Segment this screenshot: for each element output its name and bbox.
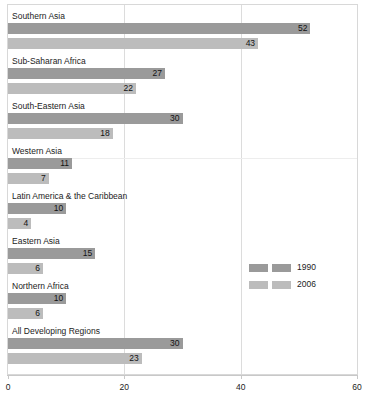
bar-value-label: 10	[54, 293, 63, 304]
x-tick-mark	[357, 375, 358, 379]
bar-value-label: 30	[170, 113, 179, 124]
plot-area: Southern Asia5243Sub-Saharan Africa2722S…	[7, 4, 358, 375]
legend-item-1990[interactable]: 1990	[249, 261, 349, 274]
category-label: Sub-Saharan Africa	[12, 55, 86, 67]
bar-group: Western Asia117	[8, 145, 357, 184]
bar-1990: 15	[8, 248, 95, 259]
bar-1990: 52	[8, 23, 310, 34]
category-label: All Developing Regions	[12, 325, 100, 337]
bar-2006: 23	[8, 353, 142, 364]
bar-1990: 27	[8, 68, 165, 79]
bar-groups: Southern Asia5243Sub-Saharan Africa2722S…	[8, 5, 357, 374]
bar-2006: 4	[8, 218, 31, 229]
bar-2006: 7	[8, 173, 49, 184]
bar-1990: 11	[8, 158, 72, 169]
bar-value-label: 6	[35, 308, 40, 319]
bar-2006: 6	[8, 308, 43, 319]
bar-value-label: 7	[41, 173, 46, 184]
x-tick-mark	[124, 375, 125, 379]
bar-1990: 10	[8, 293, 66, 304]
bar-value-label: 43	[246, 38, 255, 49]
category-label: Southern Asia	[12, 10, 65, 22]
bar-value-label: 10	[54, 203, 63, 214]
category-label: Northern Africa	[12, 280, 69, 292]
category-label: Eastern Asia	[12, 235, 60, 247]
x-tick-label: 40	[236, 382, 245, 392]
legend-swatch-icon	[249, 281, 291, 289]
legend-label: 2006	[297, 280, 316, 289]
bar-value-label: 30	[170, 338, 179, 349]
bar-value-label: 22	[123, 83, 132, 94]
bar-1990: 10	[8, 203, 66, 214]
x-tick-label: 60	[352, 382, 361, 392]
bar-value-label: 52	[298, 23, 307, 34]
bar-group: Southern Asia5243	[8, 10, 357, 49]
bar-group: Latin America & the Caribbean104	[8, 190, 357, 229]
bar-value-label: 18	[100, 128, 109, 139]
legend-swatch-icon	[249, 264, 291, 272]
bar-group: Sub-Saharan Africa2722	[8, 55, 357, 94]
x-tick-mark	[8, 375, 9, 379]
chart-legend: 19902006	[249, 261, 349, 295]
x-tick-label: 20	[120, 382, 129, 392]
bar-value-label: 15	[83, 248, 92, 259]
bar-2006: 18	[8, 128, 113, 139]
x-tick-mark	[241, 375, 242, 379]
legend-item-2006[interactable]: 2006	[249, 278, 349, 291]
bar-value-label: 6	[35, 263, 40, 274]
category-label: Western Asia	[12, 145, 62, 157]
category-label: Latin America & the Caribbean	[12, 190, 127, 202]
bar-value-label: 4	[24, 218, 29, 229]
bar-group: All Developing Regions3023	[8, 325, 357, 364]
bar-2006: 22	[8, 83, 136, 94]
category-label: South-Eastern Asia	[12, 100, 85, 112]
bar-2006: 43	[8, 38, 258, 49]
bar-1990: 30	[8, 113, 183, 124]
bar-value-label: 27	[153, 68, 162, 79]
x-tick-label: 0	[6, 382, 11, 392]
bar-value-label: 23	[129, 353, 138, 364]
bar-chart: Southern Asia5243Sub-Saharan Africa2722S…	[0, 0, 366, 405]
bar-value-label: 11	[60, 158, 69, 169]
bar-1990: 30	[8, 338, 183, 349]
legend-label: 1990	[297, 263, 316, 272]
x-axis-line	[7, 375, 358, 376]
bar-2006: 6	[8, 263, 43, 274]
bar-group: South-Eastern Asia3018	[8, 100, 357, 139]
